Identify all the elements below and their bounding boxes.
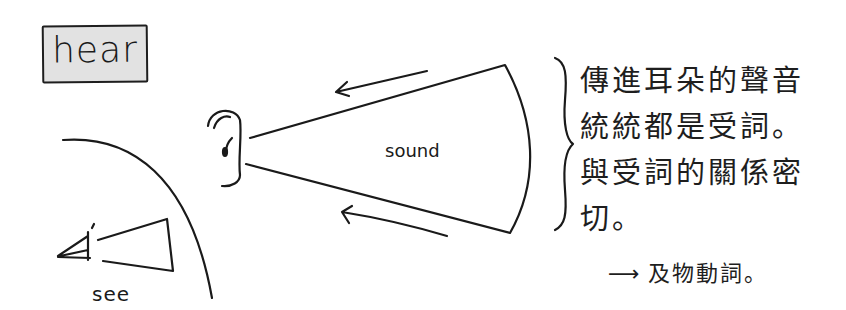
conclusion-text: 及物動詞。 [648, 261, 768, 286]
see-label: see [92, 282, 130, 306]
hear-label: hear [44, 28, 146, 70]
right-arrow-icon: ⟶ [608, 261, 642, 286]
note-line: 切。 [580, 196, 804, 242]
note-line: 統統都是受詞。 [580, 104, 804, 150]
vision-arc [63, 140, 212, 298]
eye-icon [58, 224, 94, 260]
note-line: 傳進耳朵的聲音 [580, 58, 804, 104]
note-line: 與受詞的關係密 [580, 150, 804, 196]
sight-cone [98, 219, 173, 271]
conclusion: ⟶及物動詞。 [608, 255, 768, 287]
arrow-lower [342, 206, 447, 236]
explanation-note: 傳進耳朵的聲音 統統都是受詞。 與受詞的關係密 切。 [580, 58, 804, 242]
hear-title-box: hear [42, 24, 149, 83]
brace [555, 58, 573, 230]
sound-label: sound [385, 140, 440, 161]
